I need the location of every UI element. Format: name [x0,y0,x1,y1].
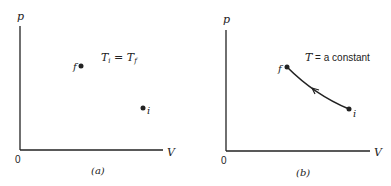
point-f-a [79,64,84,69]
point-f-label-b: f [277,63,284,74]
origin-label-a: 0 [15,154,21,165]
v-axis-label-a: V [167,146,176,159]
panel-a: p V 0 (a) f i Ti = Tf [15,10,176,176]
constant-text: = a constant [312,52,370,63]
caption-b: (b) [296,167,310,178]
point-i-b [347,107,352,112]
origin-label-b: 0 [221,155,227,166]
constant-temperature-annotation: T = a constant [305,51,370,64]
point-i-label-a: i [147,105,150,116]
panel-b: p V 0 (b) f i T = a constant [221,13,383,178]
equals-sign: = [111,51,127,64]
isotherm-curve [287,67,349,109]
point-f-b [285,65,290,70]
p-axis-label-b: p [223,13,230,26]
v-axis-label-b: V [374,146,383,159]
p-axis-label-a: p [17,10,24,23]
point-i-label-b: i [353,108,356,119]
tf-sub: f [133,57,138,65]
equal-temperature-annotation: Ti = Tf [101,51,138,65]
caption-a: (a) [91,165,105,176]
pv-diagram-figure: p V 0 (a) f i Ti = Tf p V 0 (b) f i T = … [0,0,391,186]
point-f-label-a: f [72,61,79,72]
point-i-a [141,106,146,111]
